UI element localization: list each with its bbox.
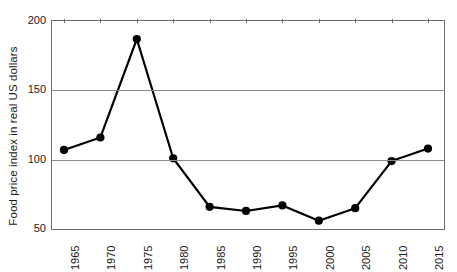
data-point-marker: 2000: 56 <box>315 217 323 225</box>
x-tickmark <box>246 19 247 23</box>
x-tick-label: 2010 <box>396 228 410 270</box>
x-tick-label: 1975 <box>141 228 155 270</box>
data-point-marker: 2015: 108 <box>424 144 432 152</box>
x-tickmark <box>392 19 393 23</box>
x-tickmark <box>137 19 138 23</box>
x-tick-label: 2005 <box>359 228 373 270</box>
x-tick-label: 1995 <box>286 228 300 270</box>
chart-figure: Food price index in real US dollars 5010… <box>0 0 457 272</box>
y-tick-label: 150 <box>18 84 46 95</box>
gridline <box>52 90 444 91</box>
y-axis-tick-labels: 50100150200 <box>18 0 46 272</box>
data-point-marker: 1965: 107 <box>60 146 68 154</box>
x-tickmark <box>64 19 65 23</box>
data-point-marker: 1995: 67 <box>278 201 286 209</box>
data-point-marker: 1980: 101 <box>169 154 177 162</box>
x-tickmark <box>319 19 320 23</box>
x-axis-tick-labels: 1965197019751980198519901995200020052010… <box>51 230 443 272</box>
data-point-marker: 1985: 66 <box>206 203 214 211</box>
plot-area: 1965: 1071970: 1161975: 1871980: 1011985… <box>51 20 445 230</box>
x-tickmark <box>428 19 429 23</box>
y-tick-label: 100 <box>18 153 46 164</box>
data-point-marker: 1990: 63 <box>242 207 250 215</box>
x-tick-label: 2015 <box>432 228 446 270</box>
data-point-marker: 1975: 187 <box>133 35 141 43</box>
data-point-marker: 1970: 116 <box>96 133 104 141</box>
x-tickmark <box>173 19 174 23</box>
data-point-marker: 2005: 65 <box>351 204 359 212</box>
data-series-line: 1965: 1071970: 1161975: 1871980: 1011985… <box>52 21 444 229</box>
x-tick-label: 2000 <box>323 228 337 270</box>
x-tick-label: 1965 <box>68 228 82 270</box>
x-tickmark <box>282 19 283 23</box>
y-tick-label: 50 <box>18 223 46 234</box>
x-tick-label: 1980 <box>177 228 191 270</box>
y-tick-label: 200 <box>18 15 46 26</box>
data-point-marker: 2010: 99 <box>388 157 396 165</box>
x-tickmark <box>210 19 211 23</box>
x-tickmark <box>100 19 101 23</box>
gridline <box>52 160 444 161</box>
x-tick-label: 1985 <box>214 228 228 270</box>
x-tickmark <box>355 19 356 23</box>
series-polyline <box>64 39 428 221</box>
x-tick-label: 1970 <box>104 228 118 270</box>
x-tick-label: 1990 <box>250 228 264 270</box>
